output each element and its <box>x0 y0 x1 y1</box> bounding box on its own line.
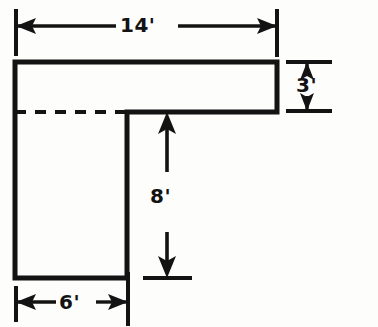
dimension-3-label: 3' <box>296 75 317 95</box>
dimension-14-label: 14' <box>120 15 155 35</box>
l-shape-outline <box>15 62 277 278</box>
dimension-6-label: 6' <box>59 292 80 312</box>
dimension-8-label: 8' <box>150 186 171 206</box>
shape-solid-edges <box>15 62 277 278</box>
drawing-svg <box>0 0 378 327</box>
figure-canvas: 14' 3' 8' 6' <box>0 0 378 327</box>
